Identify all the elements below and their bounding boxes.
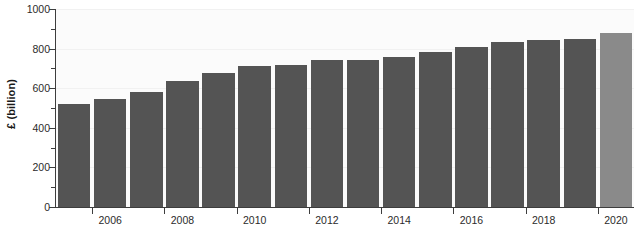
- y-tick-major: [49, 167, 56, 168]
- bar-2017: [491, 42, 524, 207]
- bar-2011: [275, 65, 308, 207]
- x-tick-label: 2006: [99, 214, 122, 226]
- bar-2006: [94, 99, 127, 207]
- bar-2016: [455, 47, 488, 207]
- bar-2015: [419, 52, 452, 207]
- bar-chart: £ (billion) 02004006008001000 2006200820…: [0, 0, 634, 234]
- y-tick-label: 0: [18, 201, 50, 213]
- y-tick-minor: [51, 108, 56, 109]
- y-tick-label: 200: [18, 161, 50, 173]
- plot-area: [56, 9, 634, 207]
- bar-2010: [238, 66, 271, 207]
- x-tick-label: 2018: [532, 214, 555, 226]
- x-axis-tick-labels: 20062008201020122014201620182020: [0, 214, 634, 234]
- x-axis-line: [55, 207, 634, 208]
- x-tick-label: 2010: [243, 214, 266, 226]
- bar-2014: [383, 57, 416, 207]
- y-tick-minor: [51, 148, 56, 149]
- bar-2020: [600, 33, 633, 207]
- x-tick-label: 2016: [460, 214, 483, 226]
- x-tick-label: 2012: [315, 214, 338, 226]
- y-tick-major: [49, 9, 56, 10]
- y-axis-title-text: £ (billion): [5, 79, 17, 129]
- bar-2012: [311, 60, 344, 207]
- x-tick-label: 2020: [604, 214, 627, 226]
- bar-2005: [58, 104, 91, 207]
- y-tick-label: 400: [18, 122, 50, 134]
- y-tick-major: [49, 207, 56, 208]
- y-tick-label: 1000: [18, 3, 50, 15]
- bar-2013: [347, 60, 380, 208]
- x-tick-label: 2014: [388, 214, 411, 226]
- bar-2008: [166, 81, 199, 207]
- y-tick-minor: [51, 187, 56, 188]
- y-tick-major: [49, 49, 56, 50]
- y-tick-major: [49, 88, 56, 89]
- bar-2019: [564, 39, 597, 207]
- x-tick-label: 2008: [171, 214, 194, 226]
- y-tick-minor: [51, 29, 56, 30]
- bar-2009: [202, 73, 235, 207]
- y-tick-minor: [51, 68, 56, 69]
- y-tick-label: 600: [18, 82, 50, 94]
- gridline: [56, 9, 634, 10]
- bar-2018: [527, 40, 560, 207]
- y-axis-tick-labels: 02004006008001000: [18, 0, 50, 214]
- y-tick-label: 800: [18, 43, 50, 55]
- bar-2007: [130, 92, 163, 207]
- y-tick-major: [49, 128, 56, 129]
